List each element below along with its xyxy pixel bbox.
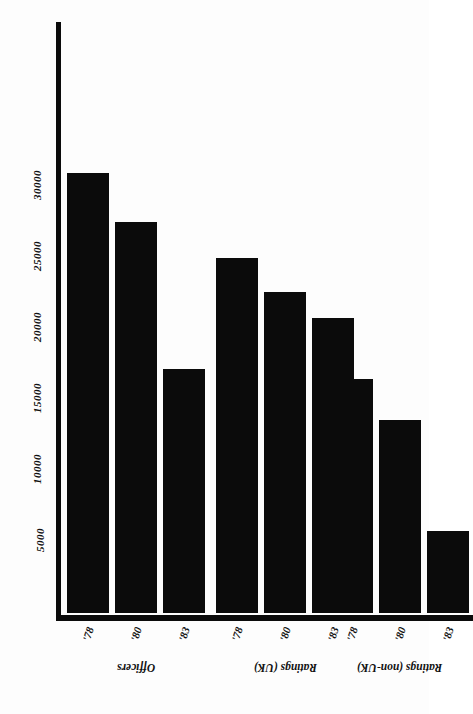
x-tick-text: '78 [80, 625, 96, 642]
x-tick-ratings-nonuk-83: '83 [429, 628, 467, 640]
x-tick-ratings-uk-78: '78 [218, 628, 256, 640]
group-label-ratings-nonuk: Ratings (non-UK) [327, 662, 473, 674]
x-tick-text: '83 [440, 625, 456, 642]
x-tick-text: '80 [277, 625, 293, 642]
x-tick-text: '80 [392, 625, 408, 642]
y-tick-label-4: 25000 [0, 250, 52, 262]
y-axis-line [56, 22, 61, 620]
group-label-text: Officers [117, 662, 155, 674]
x-tick-text: '78 [344, 625, 360, 642]
bar-ratings-nonuk-80 [379, 420, 421, 613]
x-tick-officers-83: '83 [165, 628, 203, 640]
y-tick-text-0: 5000 [34, 528, 46, 552]
x-tick-text: '80 [128, 625, 144, 642]
bar-ratings-nonuk-83 [427, 531, 469, 613]
group-label-officers: Officers [63, 662, 209, 674]
group-label-text: Ratings (non-UK) [357, 662, 442, 674]
x-tick-ratings-nonuk-80: '80 [381, 628, 419, 640]
x-tick-ratings-uk-80: '80 [266, 628, 304, 640]
y-tick-text-4: 25000 [31, 241, 43, 271]
bar-ratings-uk-80 [264, 292, 306, 613]
y-tick-label-0: 5000 [0, 534, 52, 546]
x-tick-text: '83 [176, 625, 192, 642]
x-tick-officers-80: '80 [117, 628, 155, 640]
chart-title: Decline of number of seafarers '78 - '83 [397, 0, 423, 36]
x-tick-text: '78 [229, 625, 245, 642]
y-tick-text-5: 30000 [31, 170, 43, 200]
x-tick-officers-78: '78 [69, 628, 107, 640]
group-rule-ratings-nonuk [327, 615, 473, 621]
y-tick-label-3: 20000 [0, 321, 52, 333]
y-tick-label-5: 30000 [0, 179, 52, 191]
bar-ratings-nonuk-78 [331, 379, 373, 613]
bar-officers-80 [115, 222, 157, 613]
y-tick-text-3: 20000 [31, 312, 43, 342]
x-tick-ratings-nonuk-78: '78 [333, 628, 371, 640]
y-tick-label-2: 15000 [0, 392, 52, 404]
bar-officers-78 [67, 173, 109, 613]
group-rule-officers [63, 615, 209, 621]
group-label-text: Ratings (UK) [254, 662, 317, 674]
y-tick-text-1: 10000 [31, 454, 43, 484]
y-tick-label-1: 10000 [0, 463, 52, 475]
bar-ratings-uk-78 [216, 258, 258, 613]
bar-officers-83 [163, 369, 205, 613]
y-tick-text-2: 15000 [31, 383, 43, 413]
